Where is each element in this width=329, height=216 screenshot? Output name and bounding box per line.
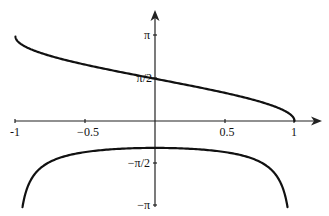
x-tick-label-1: 1 [291,125,297,139]
y-tick-label-neg-pi: −π [137,198,150,212]
y-tick-label-neg-pi-half: −π/2 [128,156,150,170]
x-tick-label-0.5: 0.5 [220,125,235,139]
x-tick-label-neg1: -1 [10,125,20,139]
y-tick-label-pi: π [144,28,150,42]
chart-canvas: -1 −0.5 0.5 1 π π/2 −π/2 −π [0,0,329,216]
x-tick-label-neg0.5: −0.5 [77,125,99,139]
